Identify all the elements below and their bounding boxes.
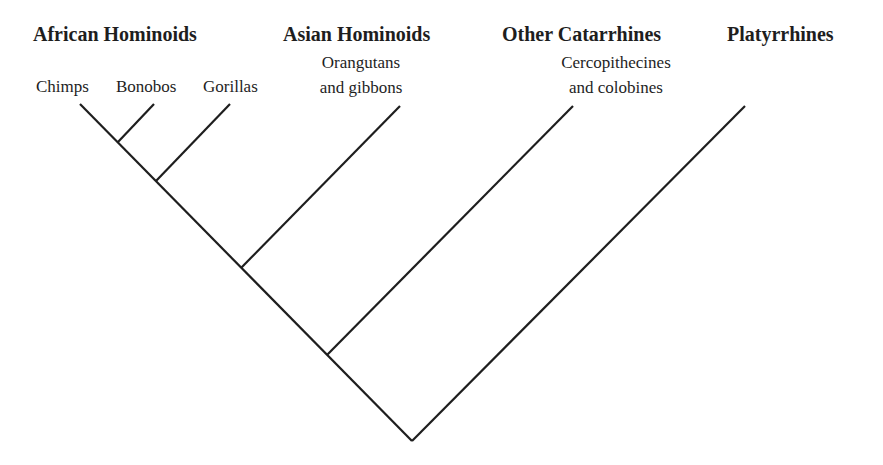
cladogram-tree	[0, 0, 883, 465]
group-label-other-catarrhines: Other Catarrhines	[502, 24, 661, 44]
group-label-asian-hominoids: Asian Hominoids	[283, 24, 430, 44]
taxon-label-line1: Cercopithecines	[546, 50, 686, 75]
branch-bonobos	[118, 104, 154, 142]
taxon-label-chimps: Chimps	[36, 78, 89, 95]
taxon-label-bonobos: Bonobos	[116, 78, 176, 95]
group-label-african-hominoids: African Hominoids	[33, 24, 197, 44]
taxon-label-cercopithecines-colobines: Cercopithecines and colobines	[546, 50, 686, 100]
branch-platyrrhines	[412, 106, 745, 441]
group-label-platyrrhines: Platyrrhines	[727, 24, 834, 44]
taxon-label-orangutans-gibbons: Orangutans and gibbons	[306, 50, 416, 100]
branch-trunk-left	[80, 104, 412, 441]
branch-orangutans-gibbons	[241, 106, 400, 268]
taxon-label-gorillas: Gorillas	[203, 78, 258, 95]
taxon-label-line2: and gibbons	[306, 75, 416, 100]
branch-gorillas	[156, 104, 230, 181]
taxon-label-line1: Orangutans	[306, 50, 416, 75]
taxon-label-line2: and colobines	[546, 75, 686, 100]
